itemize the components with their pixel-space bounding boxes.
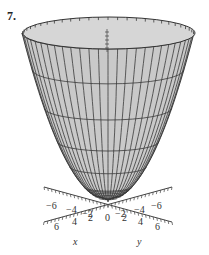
paraboloid-surface xyxy=(22,17,195,202)
y-tick-neg6: −6 xyxy=(151,200,162,211)
x-tick-neg4: −4 xyxy=(66,204,77,215)
y-axis-tick-labels: −2 −4 −6 2 4 6 xyxy=(115,200,162,232)
x-axis-tick-labels: −6 −4 −2 6 4 2 xyxy=(46,200,93,232)
origin-label: 0 xyxy=(105,212,110,223)
x-tick-2: 2 xyxy=(88,212,93,223)
x-tick-6: 6 xyxy=(54,221,59,232)
y-axis-label: y xyxy=(136,236,142,247)
y-tick-6: 6 xyxy=(155,221,160,232)
y-tick-4: 4 xyxy=(138,216,143,227)
y-tick-2: 2 xyxy=(122,212,127,223)
paraboloid-figure: −6 −4 −2 6 4 2 0 −2 −4 −6 2 4 6 x y xyxy=(0,0,209,255)
x-axis-label: x xyxy=(72,236,78,247)
x-tick-neg6: −6 xyxy=(46,200,57,211)
y-tick-neg4: −4 xyxy=(134,204,145,215)
x-tick-4: 4 xyxy=(72,216,77,227)
